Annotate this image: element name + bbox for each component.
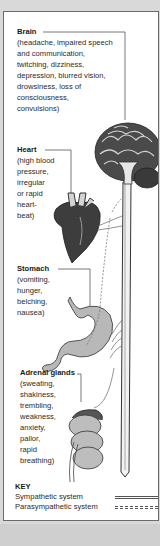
heart-symptoms: (high blood pressure, irregular or rapid… bbox=[17, 155, 55, 221]
double-dashed-line-icon bbox=[115, 506, 159, 509]
stomach-label: Stomach (vomiting, hunger, belching, nau… bbox=[17, 263, 50, 318]
stomach-title: Stomach bbox=[17, 263, 50, 274]
spinal-cord bbox=[121, 182, 131, 477]
heart-title: Heart bbox=[17, 144, 55, 155]
legend: KEY Sympathetic system Parasympathetic s… bbox=[15, 482, 159, 512]
brain-shape bbox=[95, 123, 159, 188]
heart-label: Heart (high blood pressure, irregular or… bbox=[17, 144, 55, 221]
brain-label: Brain (headache, impaired speech and com… bbox=[17, 26, 113, 114]
legend-label: Parasympathetic system bbox=[15, 502, 98, 511]
diagram-panel: Brain (headache, impaired speech and com… bbox=[3, 11, 159, 521]
brain-symptoms: (headache, impaired speech and communica… bbox=[17, 37, 113, 114]
adrenal-kidney-shape bbox=[69, 368, 114, 482]
brain-title: Brain bbox=[17, 26, 113, 37]
adrenal-leader-line bbox=[77, 374, 81, 402]
adrenal-title: Adrenal glands bbox=[20, 367, 75, 378]
heart-shape bbox=[54, 193, 100, 263]
double-solid-line-icon bbox=[115, 496, 159, 499]
legend-item-sympathetic: Sympathetic system bbox=[15, 492, 159, 502]
legend-label: Sympathetic system bbox=[15, 492, 83, 501]
legend-item-parasympathetic: Parasympathetic system bbox=[15, 502, 159, 512]
adrenal-symptoms: (sweating, shakiness, trembling, weaknes… bbox=[20, 378, 75, 466]
stomach-shape bbox=[42, 297, 112, 371]
stomach-symptoms: (vomiting, hunger, belching, nausea) bbox=[17, 274, 50, 318]
legend-title: KEY bbox=[15, 482, 159, 492]
stomach-leader-line bbox=[58, 269, 90, 308]
bottom-strip bbox=[0, 524, 160, 546]
adrenal-label: Adrenal glands (sweating, shakiness, tre… bbox=[20, 367, 75, 466]
